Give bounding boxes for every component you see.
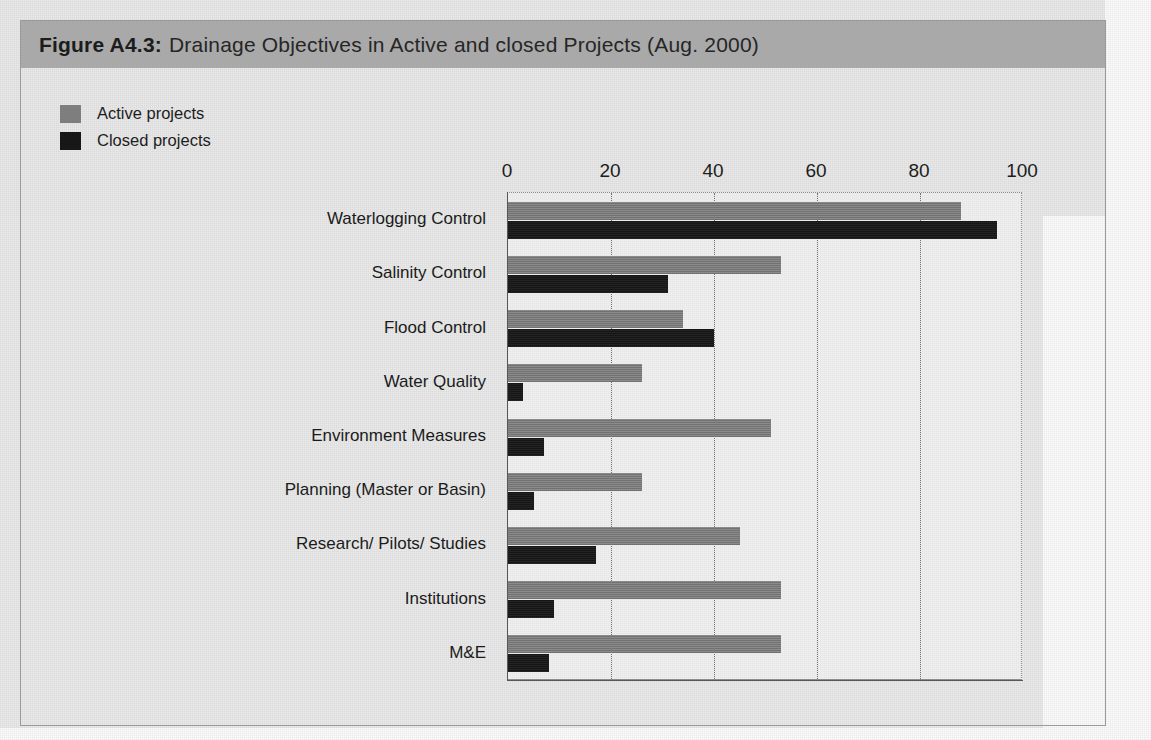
bar-active-4 — [508, 419, 771, 437]
x-tick-label-0: 0 — [502, 160, 513, 182]
bar-active-7 — [508, 581, 781, 599]
figure-title: Drainage Objectives in Active and closed… — [169, 33, 759, 57]
y-axis-line — [507, 192, 508, 681]
category-label-4: Environment Measures — [311, 426, 486, 446]
chart-legend: Active projectsClosed projects — [60, 100, 300, 154]
x-tick-label-80: 80 — [908, 160, 929, 182]
bar-series-container — [508, 193, 1021, 679]
bar-active-5 — [508, 473, 642, 491]
x-tick-label-60: 60 — [805, 160, 826, 182]
bar-closed-2 — [508, 329, 714, 347]
bar-active-2 — [508, 310, 683, 328]
y-axis-category-labels: Waterlogging ControlSalinity ControlFloo… — [180, 192, 496, 680]
category-label-8: M&E — [449, 643, 486, 663]
x-axis-line — [507, 680, 1023, 681]
category-label-5: Planning (Master or Basin) — [285, 480, 486, 500]
figure-title-bar: Figure A4.3: Drainage Objectives in Acti… — [21, 21, 1105, 68]
x-axis-labels: 020406080100 — [507, 160, 1022, 186]
bar-closed-4 — [508, 438, 544, 456]
figure-number: Figure A4.3: — [39, 33, 162, 57]
category-label-1: Salinity Control — [372, 263, 486, 283]
bar-closed-5 — [508, 492, 534, 510]
bar-active-3 — [508, 364, 642, 382]
bar-active-8 — [508, 635, 781, 653]
legend-label-active: Active projects — [97, 104, 204, 123]
bar-closed-8 — [508, 654, 549, 672]
category-label-0: Waterlogging Control — [327, 209, 486, 229]
legend-swatch-active — [60, 105, 81, 123]
category-label-7: Institutions — [405, 589, 486, 609]
bar-closed-1 — [508, 275, 668, 293]
bar-closed-3 — [508, 383, 523, 401]
bar-closed-7 — [508, 600, 554, 618]
x-tick-label-40: 40 — [702, 160, 723, 182]
plot-area — [507, 192, 1022, 680]
category-label-2: Flood Control — [384, 318, 486, 338]
bar-closed-0 — [508, 221, 997, 239]
x-tick-label-100: 100 — [1006, 160, 1038, 182]
legend-item-active: Active projects — [60, 100, 300, 127]
bar-closed-6 — [508, 546, 596, 564]
category-label-6: Research/ Pilots/ Studies — [296, 534, 486, 554]
category-label-3: Water Quality — [384, 372, 486, 392]
bar-active-0 — [508, 202, 961, 220]
bar-active-1 — [508, 256, 781, 274]
legend-label-closed: Closed projects — [97, 131, 211, 150]
x-tick-label-20: 20 — [599, 160, 620, 182]
legend-item-closed: Closed projects — [60, 127, 300, 154]
bar-active-6 — [508, 527, 740, 545]
legend-swatch-closed — [60, 132, 81, 150]
